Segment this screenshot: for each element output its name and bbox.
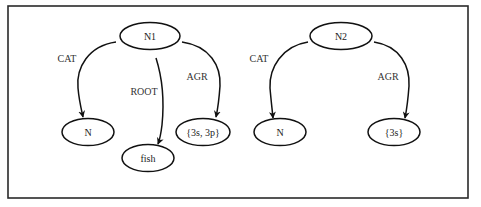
node-n1: N1	[120, 23, 180, 50]
node-cat-value-label: N	[276, 127, 283, 138]
graph-n2: CAT AGR N2 N {3s}	[250, 23, 420, 146]
node-cat-value: N	[62, 119, 114, 146]
node-agr-value-label: {3s, 3p}	[186, 127, 220, 138]
edge-root-arrow	[156, 58, 163, 144]
node-cat-value: N	[254, 119, 306, 146]
node-agr-value: {3s, 3p}	[176, 119, 230, 146]
edge-cat-arrow	[78, 42, 116, 117]
graph-n1: CAT ROOT AGR N1 N fish {3s, 3p}	[58, 23, 230, 172]
edge-cat-arrow	[270, 42, 308, 118]
feature-graph-diagram: CAT ROOT AGR N1 N fish {3s, 3p} CAT AGR	[0, 0, 481, 207]
edge-label-agr: AGR	[186, 71, 207, 82]
edge-label-cat: CAT	[58, 53, 77, 64]
node-agr-value: {3s}	[368, 119, 420, 146]
figure-frame	[8, 6, 468, 198]
node-cat-value-label: N	[84, 127, 91, 138]
edge-label-root: ROOT	[130, 86, 157, 97]
node-n2: N2	[310, 23, 372, 50]
node-root-value: fish	[122, 145, 174, 172]
node-root-value-label: fish	[141, 153, 156, 164]
node-agr-value-label: {3s}	[385, 127, 404, 138]
edge-label-cat: CAT	[250, 53, 269, 64]
edge-label-agr: AGR	[377, 71, 398, 82]
node-n1-label: N1	[144, 31, 156, 42]
node-n2-label: N2	[335, 31, 347, 42]
